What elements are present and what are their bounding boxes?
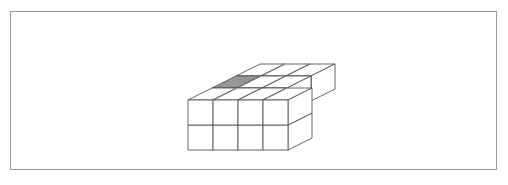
cube-front-face [188,100,213,125]
cube-front-face [238,100,263,125]
screenshot-canvas [0,0,508,185]
cube-front-face [263,100,288,125]
cube-front-face [188,125,213,150]
cube-front-face [213,125,238,150]
isometric-cube-stack-svg [0,0,508,185]
cube-front-face [213,100,238,125]
cube-front-face [263,125,288,150]
cube-group [188,64,335,150]
cube-front-face [238,125,263,150]
isometric-figure [0,0,508,185]
